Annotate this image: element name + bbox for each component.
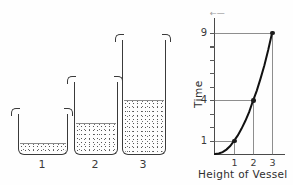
x-axis-title: Height of Vessel [198, 168, 287, 180]
data-point-3 [270, 31, 274, 35]
data-point-1 [232, 139, 236, 143]
y-axis-title: Time [192, 80, 204, 108]
data-point-2 [251, 98, 255, 102]
figure-container: 1 2 3 ←— [0, 0, 293, 185]
curve-quadratic [0, 0, 293, 185]
